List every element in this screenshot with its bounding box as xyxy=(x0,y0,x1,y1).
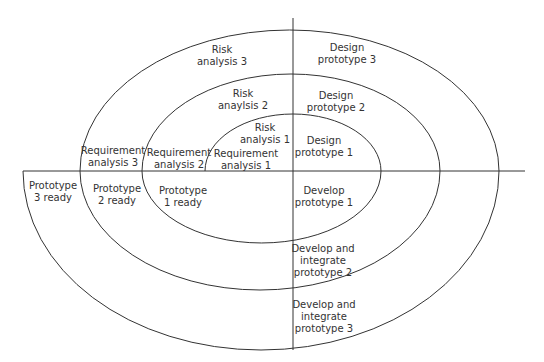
label-prototype-2-ready: Prototype 2 ready xyxy=(93,183,141,207)
label-risk-analysis-3: Risk analysis 3 xyxy=(197,44,247,68)
label-design-prototype-1: Design prototype 1 xyxy=(295,135,353,159)
label-develop-integrate-prototype-2: Develop and integrate prototype 2 xyxy=(291,243,354,279)
label-requirement-analysis-2: Requirement analysis 2 xyxy=(147,147,211,171)
label-requirement-analysis-3: Requirement analysis 3 xyxy=(81,145,145,169)
label-design-prototype-2: Design prototype 2 xyxy=(307,90,365,114)
label-develop-integrate-prototype-3: Develop and integrate prototype 3 xyxy=(292,299,355,335)
spiral-diagram xyxy=(0,0,544,362)
label-prototype-3-ready: Prototype 3 ready xyxy=(29,180,77,204)
label-prototype-1-ready: Prototype 1 ready xyxy=(159,185,207,209)
label-develop-prototype-1: Develop prototype 1 xyxy=(295,185,353,209)
label-design-prototype-3: Design prototype 3 xyxy=(318,42,376,66)
label-risk-analysis-1: Risk analysis 1 xyxy=(240,122,290,146)
label-requirement-analysis-1: Requirement analysis 1 xyxy=(214,148,278,172)
label-risk-analysis-2: Risk anaylsis 2 xyxy=(218,88,268,112)
